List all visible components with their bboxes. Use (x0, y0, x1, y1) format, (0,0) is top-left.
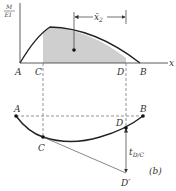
m-ei-diagram: x̄2 M EI x A C D B (4, 3, 175, 77)
tangent-at-c (43, 137, 126, 173)
point-a (14, 114, 18, 118)
label-a-top: A (14, 67, 22, 77)
elastic-curve (16, 116, 143, 142)
point-c (41, 135, 45, 139)
y-axis-label-den: EI (4, 11, 12, 18)
y-axis-label-num: M (5, 3, 13, 10)
x-axis-label: x (169, 58, 174, 68)
label-b-top: B (139, 67, 147, 77)
label-c-top: C (35, 67, 42, 77)
figure-label: (b) (149, 166, 162, 176)
label-d-top: D (116, 67, 124, 77)
point-d (124, 126, 128, 130)
moment-area-diagram: x̄2 M EI x A C D B A B C D D′ tD/C (b) (0, 0, 176, 191)
label-d-prime: D′ (120, 178, 130, 188)
point-b (141, 114, 145, 118)
deviation-label: tD/C (129, 147, 144, 158)
label-c-bottom: C (38, 143, 45, 153)
label-d-bottom: D (115, 118, 123, 128)
label-b-bottom: B (139, 104, 147, 114)
elastic-curve-diagram: A B C D D′ tD/C (b) (13, 104, 162, 188)
label-a-bottom: A (13, 104, 21, 114)
dimension-label: x̄2 (94, 12, 103, 23)
